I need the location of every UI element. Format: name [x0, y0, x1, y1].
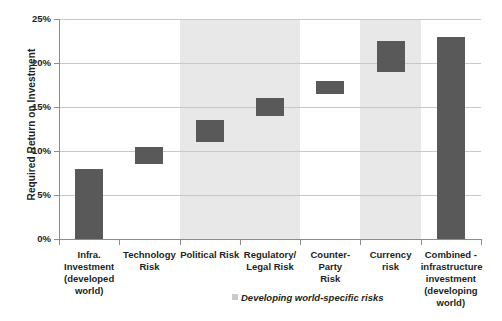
- y-tick-label: 15%: [11, 101, 51, 112]
- gridline: [59, 19, 481, 20]
- y-tick-mark: [54, 107, 59, 108]
- plot-area: [59, 19, 481, 239]
- x-axis-category-label: Currency risk: [360, 249, 420, 273]
- x-axis-line: [59, 239, 482, 240]
- x-axis-category-label: TechnologyRisk: [119, 249, 179, 273]
- x-tick-mark: [180, 240, 181, 245]
- gridline: [59, 151, 481, 152]
- y-tick-mark: [54, 19, 59, 20]
- y-axis-line: [59, 19, 60, 240]
- y-tick-mark: [54, 195, 59, 196]
- y-axis-title: Required Return on Investment: [26, 15, 37, 235]
- bar: [75, 169, 103, 239]
- x-axis-category-label: Combined -infrastructureinvestment(devel…: [421, 249, 481, 309]
- x-tick-mark: [481, 240, 482, 245]
- y-tick-mark: [54, 151, 59, 152]
- y-tick-label: 5%: [11, 189, 51, 200]
- x-tick-mark: [421, 240, 422, 245]
- legend-note-label: Developing world-specific risks: [241, 292, 384, 303]
- x-axis-category-label: Counter-PartyRisk: [300, 249, 360, 285]
- bar: [377, 41, 405, 72]
- chart-container: Required Return on Investment 0%5%10%15%…: [0, 0, 502, 321]
- y-tick-label: 20%: [11, 57, 51, 68]
- gridline: [59, 195, 481, 196]
- bar: [256, 98, 284, 116]
- legend-swatch-icon: [232, 294, 238, 300]
- x-axis-category-label: Infra.Investment(developedworld): [59, 249, 119, 297]
- y-tick-label: 0%: [11, 233, 51, 244]
- y-tick-mark: [54, 63, 59, 64]
- bar: [437, 37, 465, 239]
- legend-note: Developing world-specific risks: [232, 292, 384, 303]
- x-tick-mark: [240, 240, 241, 245]
- bar: [135, 147, 163, 165]
- x-axis-category-label: Political Risk: [180, 249, 240, 261]
- gridline: [59, 63, 481, 64]
- bar: [316, 81, 344, 94]
- x-tick-mark: [59, 240, 60, 245]
- x-axis-category-label: Regulatory/Legal Risk: [240, 249, 300, 273]
- x-tick-mark: [119, 240, 120, 245]
- y-tick-label: 25%: [11, 13, 51, 24]
- bar: [196, 120, 224, 142]
- x-tick-mark: [360, 240, 361, 245]
- y-tick-label: 10%: [11, 145, 51, 156]
- x-tick-mark: [300, 240, 301, 245]
